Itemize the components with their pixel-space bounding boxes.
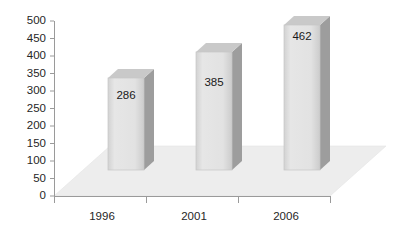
- x-category-label-1996: 1996: [70, 210, 134, 222]
- x-axis-ticks: [55, 196, 331, 203]
- y-tick-label: 100: [2, 154, 46, 166]
- y-tick-label: 50: [2, 172, 46, 184]
- bar-side-1996: [144, 69, 154, 170]
- x-category-label-2001: 2001: [162, 210, 226, 222]
- bar-side-2006: [320, 16, 330, 170]
- bar-side-2001: [232, 43, 242, 170]
- bar-group-1996: [108, 69, 154, 170]
- chart-container: 500 450 400 350 300 250 200 150 100 50 0…: [0, 0, 400, 240]
- y-axis-ticks: [50, 21, 54, 196]
- bar-data-label-2006: 462: [284, 30, 320, 42]
- y-tick-label: 250: [2, 102, 46, 114]
- bar-data-label-1996: 286: [108, 89, 144, 101]
- y-tick-label: 300: [2, 84, 46, 96]
- y-tick-label: 500: [2, 14, 46, 26]
- y-tick-label: 200: [2, 119, 46, 131]
- y-tick-label: 400: [2, 49, 46, 61]
- bar-data-label-2001: 385: [196, 76, 232, 88]
- chart-plot-area: [0, 0, 400, 240]
- bar-group-2001: [196, 43, 242, 170]
- y-tick-label: 0: [2, 189, 46, 201]
- y-tick-label: 350: [2, 67, 46, 79]
- bar-front-2006: [284, 25, 320, 170]
- y-tick-label: 450: [2, 32, 46, 44]
- y-tick-label: 150: [2, 137, 46, 149]
- bar-front-2001: [196, 52, 232, 170]
- x-category-label-2006: 2006: [254, 210, 318, 222]
